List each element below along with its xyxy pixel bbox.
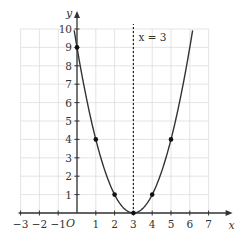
data-point bbox=[150, 192, 155, 197]
x-tick-label: 1 bbox=[92, 218, 99, 230]
data-point bbox=[169, 137, 174, 142]
data-point bbox=[75, 45, 80, 50]
x-tick-label: −3 bbox=[13, 218, 28, 230]
y-axis-arrow-icon bbox=[74, 11, 80, 18]
y-axis-label: y bbox=[65, 7, 73, 20]
y-tick-label: 7 bbox=[65, 78, 72, 90]
y-tick-label: 9 bbox=[65, 41, 72, 53]
annotations: x = 3 bbox=[133, 24, 166, 213]
y-tick-label: 5 bbox=[65, 115, 72, 127]
x-axis-arrow-icon bbox=[226, 210, 233, 216]
data-point bbox=[131, 211, 136, 216]
y-tick-label: 6 bbox=[65, 97, 72, 109]
axes: xyO bbox=[19, 7, 236, 232]
x-axis-label: x bbox=[229, 219, 236, 232]
y-tick-label: 8 bbox=[65, 60, 72, 72]
x-tick-label: 5 bbox=[168, 218, 175, 230]
y-tick-label: 4 bbox=[65, 133, 72, 145]
y-tick-label: 10 bbox=[59, 23, 72, 35]
axis-of-symmetry-label: x = 3 bbox=[138, 31, 166, 43]
x-tick-label: −2 bbox=[32, 218, 47, 230]
x-tick-label: 2 bbox=[111, 218, 118, 230]
grid bbox=[21, 29, 209, 213]
origin-label: O bbox=[66, 217, 75, 230]
data-point bbox=[94, 137, 99, 142]
data-points bbox=[75, 45, 174, 215]
data-point bbox=[112, 192, 117, 197]
x-tick-label: −1 bbox=[50, 218, 65, 230]
x-tick-label: 6 bbox=[186, 218, 193, 230]
ticks: −3−2−1123456712345678910 bbox=[13, 23, 212, 230]
x-tick-label: 7 bbox=[205, 218, 212, 230]
y-tick-label: 2 bbox=[65, 170, 72, 182]
y-tick-label: 1 bbox=[65, 189, 72, 201]
x-tick-label: 3 bbox=[130, 218, 137, 230]
parabola-chart: xyO −3−2−1123456712345678910 x = 3 bbox=[0, 0, 238, 236]
y-tick-label: 3 bbox=[65, 152, 72, 164]
x-tick-label: 4 bbox=[149, 218, 156, 230]
